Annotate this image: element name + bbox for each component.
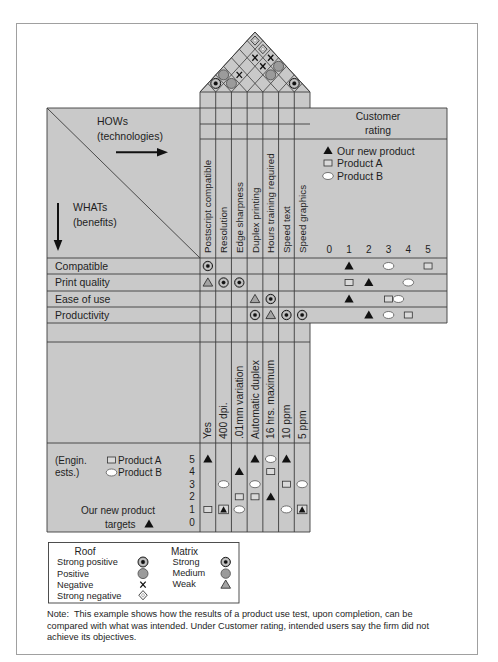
positive-icon xyxy=(274,61,284,71)
product-a-square-icon xyxy=(385,296,393,302)
what-label: Compatible xyxy=(55,260,108,272)
engin-scale-tick: 5 xyxy=(189,454,195,465)
customer-rating-title: rating xyxy=(365,125,391,136)
strong-relationship-icon xyxy=(250,310,259,319)
engin-label: ests.) xyxy=(55,467,79,478)
strong-relationship-icon xyxy=(297,310,306,319)
legend-matrix-item: Strong xyxy=(173,557,200,567)
how-header: Postscript compatible xyxy=(202,159,213,253)
what-label: Print quality xyxy=(55,276,111,288)
positive-icon xyxy=(138,569,148,579)
product-b-ellipse-icon xyxy=(383,312,394,319)
product-a-square-icon xyxy=(235,494,243,500)
legend-matrix-title: Matrix xyxy=(171,546,198,557)
product-b-ellipse-icon xyxy=(383,263,394,270)
house-of-quality-figure: HOWs (technologies) WHATs (benefits) Pos… xyxy=(0,0,498,662)
legend-matrix-item: Weak xyxy=(173,579,197,589)
product-b-ellipse-icon xyxy=(393,296,404,303)
square-icon xyxy=(108,457,116,463)
target-value: 10 ppm xyxy=(281,405,292,439)
product-a-square-icon xyxy=(345,280,353,286)
note-line: compared with what was intended. Under C… xyxy=(47,621,429,631)
how-header: Edge sharpness xyxy=(234,182,245,253)
product-b-ellipse-icon xyxy=(218,481,229,488)
strong-positive-icon xyxy=(289,78,299,88)
legend-roof-title: Roof xyxy=(74,546,95,557)
product-a-square-icon xyxy=(424,263,432,269)
engin-targets-label: targets xyxy=(105,519,136,530)
ellipse-icon xyxy=(106,469,117,476)
scale-tick: 3 xyxy=(386,244,392,255)
legend-roof-item: Strong positive xyxy=(57,557,118,567)
what-label: Ease of use xyxy=(55,293,111,305)
product-a-square-icon xyxy=(267,469,275,475)
ellipse-icon xyxy=(323,173,334,180)
note-line: Note: This example shows how the results… xyxy=(47,609,413,619)
target-value: Automatic duplex xyxy=(250,359,261,439)
target-value: 5 ppm xyxy=(297,410,308,439)
strong-relationship-icon xyxy=(266,294,275,303)
product-b-ellipse-icon xyxy=(281,506,292,513)
product-b-ellipse-icon xyxy=(403,279,414,286)
scale-tick: 1 xyxy=(346,244,352,255)
scale-tick: 2 xyxy=(366,244,372,255)
whats-label: WHATs xyxy=(73,201,107,213)
positive-icon xyxy=(219,70,229,80)
hows-sub: (technologies) xyxy=(97,130,163,142)
engin-product-b-label: Product B xyxy=(118,467,162,478)
square-icon xyxy=(324,160,332,166)
scale-tick: 0 xyxy=(327,244,333,255)
legend-our-new-product: Our new product xyxy=(337,145,415,157)
target-value: Yes xyxy=(202,422,213,439)
what-label: Productivity xyxy=(55,309,110,321)
engin-product-a-label: Product A xyxy=(118,455,162,466)
legend-product-a: Product A xyxy=(337,157,383,169)
engin-scale-tick: 1 xyxy=(189,504,195,515)
engin-targets-label: Our new product xyxy=(81,505,155,516)
strong-relationship-icon xyxy=(219,278,228,287)
legend-product-b: Product B xyxy=(337,170,383,182)
target-value: 400 dpi. xyxy=(218,402,229,439)
product-a-square-icon xyxy=(251,494,259,500)
engin-label: (Engin. xyxy=(55,455,87,466)
how-header: Speed text xyxy=(281,206,292,253)
how-header: Resolution xyxy=(218,207,229,253)
customer-rating-title: Customer xyxy=(356,111,401,122)
product-b-ellipse-icon xyxy=(297,481,308,488)
engin-scale-tick: 4 xyxy=(189,466,195,477)
how-header: Hours training required xyxy=(265,153,276,253)
strong-positive-icon xyxy=(138,557,148,567)
product-b-ellipse-icon xyxy=(234,506,245,513)
legend-roof-item: Strong negative xyxy=(57,591,121,601)
positive-icon xyxy=(266,70,276,80)
scale-tick: 4 xyxy=(406,244,412,255)
strong-positive-icon xyxy=(211,78,221,88)
positive-icon xyxy=(226,78,236,88)
product-b-ellipse-icon xyxy=(250,481,261,488)
strong-relationship-icon xyxy=(282,310,291,319)
product-a-square-icon xyxy=(404,312,412,318)
legend-roof-item: Negative xyxy=(57,580,93,590)
target-value: .01mm variation xyxy=(234,365,245,439)
product-b-ellipse-icon xyxy=(265,456,276,463)
medium-relationship-icon xyxy=(221,569,230,578)
engin-scale-tick: 2 xyxy=(189,491,195,502)
whats-sub: (benefits) xyxy=(73,216,117,228)
product-a-square-icon xyxy=(282,481,290,487)
legend-roof-item: Positive xyxy=(57,569,89,579)
scale-tick: 5 xyxy=(425,244,431,255)
note-line: achieve its objectives. xyxy=(47,632,136,642)
strong-relationship-icon xyxy=(235,278,244,287)
hows-label: HOWs xyxy=(97,115,128,127)
engin-scale-tick: 3 xyxy=(189,479,195,490)
how-header: Duplex printing xyxy=(250,188,261,253)
target-value: 16 hrs. maximum xyxy=(265,360,276,439)
legend-matrix-item: Medium xyxy=(173,568,206,578)
engin-scale-tick: 0 xyxy=(189,517,195,528)
strong-relationship-icon xyxy=(203,261,212,270)
product-a-square-icon xyxy=(204,506,212,512)
how-header: Speed graphics xyxy=(297,185,308,253)
strong-relationship-icon xyxy=(221,557,230,566)
